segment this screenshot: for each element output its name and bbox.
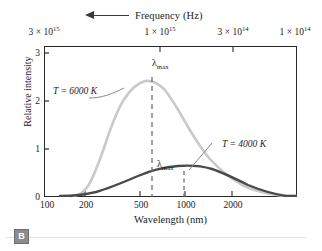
figure-footer: B <box>0 228 322 248</box>
x-axis-ticks <box>85 191 232 197</box>
blackbody-radiation-figure: Frequency (Hz) 3 × 1015 1 × 1015 3 × 101… <box>0 0 322 251</box>
top-axis-tick-label-3: 3 × 1014 <box>218 27 249 38</box>
x-axis-tick-label-200: 200 <box>79 200 93 211</box>
frequency-direction-arrow-icon <box>85 10 131 22</box>
x-axis-tick-label-1000: 1000 <box>177 200 196 211</box>
top-axis-ticks <box>160 46 233 52</box>
frequency-axis-header: Frequency (Hz) <box>85 8 255 24</box>
top-axis-tick-label-4: 1 × 1014 <box>280 27 311 38</box>
x-axis-title: Wavelength (nm) <box>44 214 297 226</box>
y-axis-title: Relative intensity <box>22 37 33 147</box>
footer-divider <box>6 237 306 238</box>
top-axis-tick-label-1: 3 × 1015 <box>29 27 60 38</box>
frequency-axis-title: Frequency (Hz) <box>131 10 203 22</box>
y-axis-ticks <box>44 53 49 149</box>
plot-canvas <box>44 46 297 197</box>
lambda-max-label-6000k: λmax <box>152 57 169 68</box>
x-axis-tick-label-100: 100 <box>40 200 54 211</box>
top-axis-tick-label-2: 1 × 1015 <box>145 27 176 38</box>
panel-badge-b[interactable]: B <box>14 229 29 244</box>
y-axis-tick-label-0: 0 <box>26 192 40 202</box>
x-axis-tick-label-2000: 2000 <box>224 200 243 211</box>
series-label-4000k: T = 4000 K <box>222 139 266 150</box>
x-axis-tick-label-500: 500 <box>134 200 148 211</box>
series-label-6000k: T = 6000 K <box>53 86 97 97</box>
lambda-max-label-4000k: λmax <box>157 158 174 169</box>
